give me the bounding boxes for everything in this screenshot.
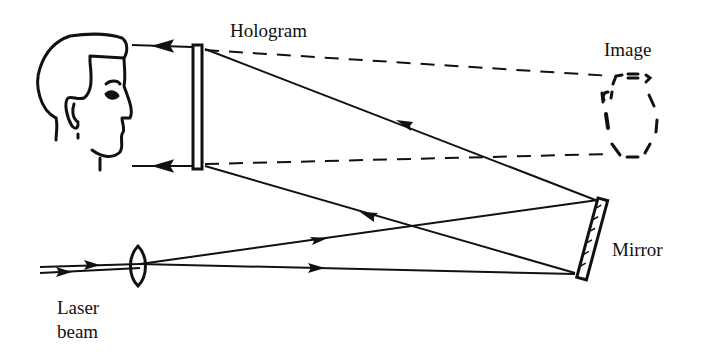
mirror <box>577 198 608 280</box>
hologram-label: Hologram <box>230 21 307 40</box>
virtual-image <box>602 74 657 157</box>
hologram-plate <box>193 45 202 169</box>
arrow-icon <box>360 212 378 222</box>
viewer-head <box>38 34 132 170</box>
lens <box>131 246 146 286</box>
image-label: Image <box>604 40 651 59</box>
reconstructed-rays <box>132 41 192 171</box>
virtual-rays <box>205 50 612 164</box>
hologram-diagram <box>0 0 701 363</box>
arrow-icon <box>396 120 413 131</box>
arrow-left-icon <box>155 161 172 171</box>
beam-label: beam <box>57 322 98 341</box>
mirror-label: Mirror <box>612 240 663 259</box>
arrow-left-icon <box>155 41 172 51</box>
laser-label: Laser <box>57 298 99 317</box>
ray-arrows <box>56 120 413 277</box>
arrow-icon <box>310 237 328 245</box>
